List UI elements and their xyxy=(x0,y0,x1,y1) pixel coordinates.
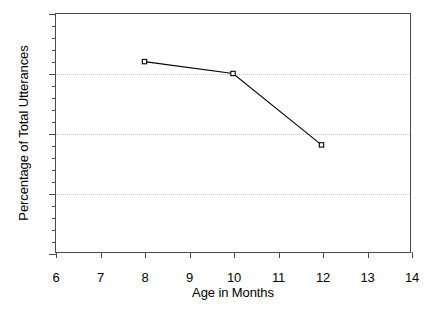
y-tick-10 xyxy=(49,134,56,135)
x-tick-12 xyxy=(323,252,324,258)
x-tick-14 xyxy=(412,252,413,258)
x-tick-label-8: 8 xyxy=(125,271,165,285)
y-tick-20 xyxy=(49,14,56,15)
x-tick-6 xyxy=(56,252,57,258)
x-tick-label-7: 7 xyxy=(81,271,121,285)
data-point-8-16 xyxy=(142,59,146,63)
x-tick-label-14: 14 xyxy=(392,271,432,285)
x-axis-title: Age in Months xyxy=(55,285,411,300)
x-tick-8 xyxy=(145,252,146,258)
x-tick-label-6: 6 xyxy=(36,271,76,285)
x-tick-label-10: 10 xyxy=(214,271,254,285)
data-point-10-15 xyxy=(231,71,235,75)
x-tick-13 xyxy=(368,252,369,258)
x-tick-label-9: 9 xyxy=(170,271,210,285)
x-tick-label-13: 13 xyxy=(348,271,388,285)
line-chart-figure: Percentage of Total Utterances 05101520 … xyxy=(0,0,432,311)
x-tick-label-11: 11 xyxy=(259,271,299,285)
x-tick-label-12: 12 xyxy=(303,271,343,285)
x-tick-7 xyxy=(101,252,102,258)
y-tick-15 xyxy=(49,74,56,75)
x-tick-9 xyxy=(190,252,191,258)
plot-area: 05101520 67891011121314 xyxy=(55,13,411,253)
x-tick-10 xyxy=(234,252,235,258)
series-markers xyxy=(142,59,323,147)
y-axis-title: Percentage of Total Utterances xyxy=(16,13,32,253)
y-tick-0 xyxy=(49,254,56,255)
y-tick-5 xyxy=(49,194,56,195)
x-tick-11 xyxy=(279,252,280,258)
series-layer xyxy=(56,14,410,252)
data-point-12-9 xyxy=(319,143,323,147)
